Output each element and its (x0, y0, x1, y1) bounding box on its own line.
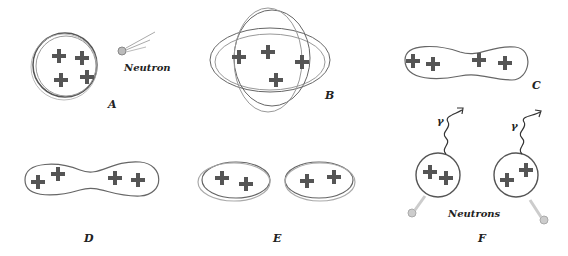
gamma-ray-icon (444, 108, 541, 154)
neutrons-label: Neutrons (448, 208, 500, 219)
panel-d-protons (31, 167, 145, 189)
panel-label-e: E (273, 232, 281, 245)
panel-a-nucleus (31, 33, 97, 100)
panel-e-protons (215, 170, 341, 191)
panel-label-a: A (108, 98, 117, 111)
panel-a-protons (52, 49, 94, 87)
panel-label-d: D (84, 232, 94, 245)
neutron-icon (118, 32, 155, 55)
panel-b-nucleus (210, 8, 330, 112)
panel-f-nuclei (416, 153, 538, 197)
panel-label-f: F (478, 232, 486, 245)
panel-label-c: C (532, 79, 541, 92)
panel-label-b: B (325, 89, 334, 102)
panel-c-protons (406, 53, 512, 71)
gamma-label-left: γ (437, 115, 444, 126)
panel-f-protons (423, 163, 533, 187)
gamma-label-right: γ (511, 120, 518, 131)
panel-b-protons (232, 45, 309, 87)
neutron-label: Neutron (124, 62, 171, 73)
